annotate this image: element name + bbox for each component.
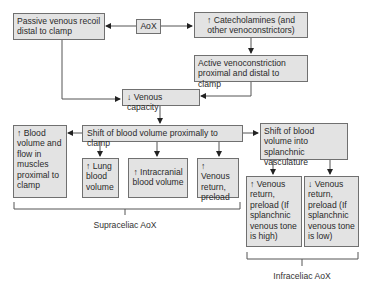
venous-return-low-tone-box: ↓ Venous return, preload (If splanchnic … — [304, 176, 359, 247]
arrow-passive-to-capacity — [62, 39, 120, 99]
venous-return-high-tone-box: ↑ Venous return, preload (If splanchnic … — [246, 176, 302, 247]
supraceliac-label: Supraceliac AoX — [75, 220, 175, 230]
catecholamines-box: ↑ Catecholamines (and other venoconstric… — [194, 12, 308, 38]
infraceliac-label: Infraceliac AoX — [252, 271, 352, 281]
infraceliac-bracket — [247, 252, 358, 259]
venous-capacity-box: ↓ Venous capacity — [122, 89, 200, 106]
passive-recoil-box: Passive venous recoil distal to clamp — [13, 13, 105, 40]
supraceliac-bracket — [14, 202, 240, 209]
shift-proximal-box: Shift of blood volume proximally to clam… — [82, 125, 243, 142]
lung-blood-volume-box: ↑ Lung blood volume — [82, 158, 119, 198]
intracranial-blood-volume-box: ↑ Intracranial blood volume — [128, 158, 188, 198]
muscle-blood-volume-box: ↑ Blood volume and flow in muscles proxi… — [13, 125, 67, 198]
venous-return-preload-box: ↑ Venous return, preload — [197, 158, 239, 198]
active-venoconstriction-box: Active venoconstriction proximal and dis… — [194, 55, 308, 82]
aox-box: AoX — [136, 19, 161, 34]
shift-splanchnic-box: Shift of blood volume into splanchnic va… — [260, 123, 348, 160]
